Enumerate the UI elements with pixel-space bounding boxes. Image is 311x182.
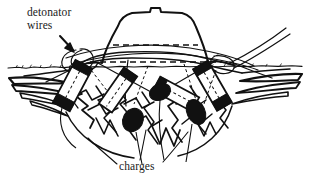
illustration-figure: detonator wires charges	[0, 0, 311, 182]
deep-notch-1	[152, 126, 180, 146]
detonator-wires-label-line1: detonator	[27, 6, 71, 19]
strata-left-1	[9, 77, 70, 84]
charge-2-head	[119, 105, 148, 136]
charges-label: charges	[119, 160, 155, 173]
strata-right-3	[232, 92, 288, 104]
charges-leader-mid	[140, 130, 146, 160]
ground-surface-group	[8, 64, 302, 68]
detonator-wires-arrow	[60, 36, 74, 52]
charge-4-lead-wire	[186, 124, 192, 162]
arrow-head	[65, 43, 74, 52]
charge-3-lead-wire	[159, 100, 164, 160]
detonator-wires-label-line2: wires	[27, 19, 71, 32]
charges-leader-left	[88, 138, 117, 164]
wire-riser-right-2	[234, 34, 290, 68]
ground-surface-line	[8, 66, 302, 68]
charges-leader-lines	[88, 130, 188, 164]
charges-leader-right	[163, 132, 188, 162]
detonator-wires-label: detonator wires	[27, 6, 71, 32]
strata-right-2	[236, 82, 300, 93]
